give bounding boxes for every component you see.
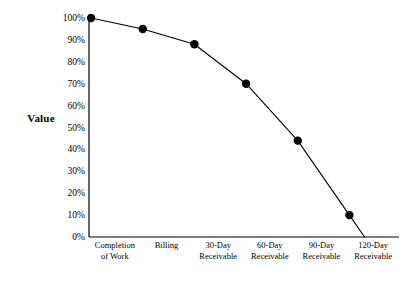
y-tick-label: 80%	[41, 57, 85, 67]
axis-lines	[89, 18, 399, 237]
x-tick-label-line: 120-Day	[331, 240, 415, 251]
y-tick-label: 40%	[41, 144, 85, 154]
y-tick-label: 50%	[41, 123, 85, 133]
data-markers	[87, 14, 354, 220]
x-tick-label-line: Receivable	[331, 251, 415, 262]
data-point-marker	[139, 25, 147, 33]
data-point-marker	[294, 136, 302, 144]
x-axis-tick-labels: Completionof WorkBilling30-DayReceivable…	[89, 240, 399, 280]
line-chart: Value 0%10%20%30%40%50%60%70%80%90%100% …	[0, 0, 418, 285]
data-point-marker	[190, 40, 198, 48]
plot-svg	[89, 18, 399, 237]
data-point-marker	[87, 14, 95, 22]
y-tick-label: 100%	[41, 13, 85, 23]
y-tick-label: 90%	[41, 35, 85, 45]
y-tick-label: 30%	[41, 166, 85, 176]
data-point-marker	[345, 211, 353, 219]
y-tick-label: 20%	[41, 188, 85, 198]
y-tick-label: 10%	[41, 210, 85, 220]
plot-area	[89, 18, 399, 237]
y-tick-label: 60%	[41, 101, 85, 111]
data-line	[91, 18, 365, 237]
x-tick-label: 120-DayReceivable	[331, 240, 415, 262]
data-point-marker	[242, 80, 250, 88]
x-tick-label-line: of Work	[73, 251, 157, 262]
y-tick-label: 70%	[41, 79, 85, 89]
